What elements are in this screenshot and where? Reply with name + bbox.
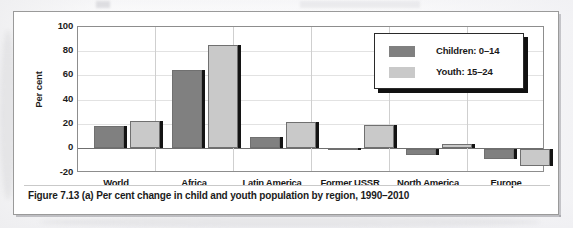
bar-former-ussr-youth — [364, 125, 394, 148]
bar-europe-youth — [520, 149, 550, 166]
bar-edge — [160, 121, 163, 148]
bar-edge — [550, 149, 553, 166]
x-tick-label-north-america: North America — [389, 177, 467, 188]
bar-face — [286, 122, 316, 148]
caption-divider — [24, 185, 550, 186]
bar-edge — [436, 149, 439, 155]
bar-former-ussr-children — [328, 148, 358, 150]
figure-frame: Per cent 100 80 60 40 20 0 -20 — [13, 11, 559, 215]
bar-chart: Per cent 100 80 60 40 20 0 -20 — [14, 12, 560, 216]
bar-face — [442, 144, 472, 148]
bar-edge — [202, 70, 205, 148]
chart-legend: Children: 0–14 Youth: 15–24 — [374, 33, 524, 89]
bar-face — [520, 149, 550, 166]
y-tick-0: 0 — [45, 142, 73, 152]
legend-label-children: Children: 0–14 — [436, 45, 499, 57]
bar-edge — [124, 126, 127, 148]
bar-edge — [514, 149, 517, 159]
bar-face — [364, 125, 394, 148]
bar-latin-america-children — [250, 137, 280, 148]
panel-separator-1 — [155, 27, 156, 171]
scan-artifact-top-left — [96, 1, 110, 8]
scan-smudge-bottom — [40, 216, 540, 228]
bar-edge — [316, 122, 319, 148]
bar-edge — [394, 125, 397, 148]
panel-separator-3 — [311, 27, 312, 171]
x-tick-label-world: World — [77, 177, 155, 188]
bar-face — [250, 137, 280, 148]
x-tick-label-europe: Europe — [467, 177, 545, 188]
y-tick-neg20: -20 — [45, 167, 73, 177]
legend-swatch-children — [389, 46, 415, 57]
y-tick-20: 20 — [45, 118, 73, 128]
bar-north-america-youth — [442, 144, 472, 148]
bar-edge — [358, 148, 361, 150]
y-tick-40: 40 — [45, 94, 73, 104]
bar-face — [94, 126, 124, 148]
x-tick-label-africa: Africa — [155, 177, 233, 188]
scanned-page: Per cent 100 80 60 40 20 0 -20 — [0, 0, 573, 228]
legend-swatch-youth — [389, 67, 415, 78]
y-tick-60: 60 — [45, 69, 73, 79]
bar-world-youth — [130, 121, 160, 148]
y-tick-100: 100 — [45, 21, 73, 31]
bar-latin-america-youth — [286, 122, 316, 148]
bar-face — [484, 149, 514, 159]
x-tick-label-former-ussr: Former USSR — [311, 177, 389, 188]
bar-face — [328, 148, 358, 150]
x-tick-label-latin-america: Latin America — [233, 177, 311, 188]
bar-africa-children — [172, 70, 202, 148]
bar-edge — [238, 45, 241, 148]
bar-edge — [472, 144, 475, 148]
y-tick-80: 80 — [45, 45, 73, 55]
bar-africa-youth — [208, 45, 238, 148]
scan-artifact-top-right — [300, 1, 420, 8]
legend-label-youth: Youth: 15–24 — [436, 66, 493, 78]
bar-face — [208, 45, 238, 148]
bar-edge — [280, 137, 283, 148]
bar-face — [130, 121, 160, 148]
bar-world-children — [94, 126, 124, 148]
figure-caption: Figure 7.13 (a) Per cent change in child… — [28, 190, 409, 201]
bar-face — [406, 149, 436, 155]
bar-north-america-children — [406, 149, 436, 155]
bar-face — [172, 70, 202, 148]
bar-europe-children — [484, 149, 514, 159]
